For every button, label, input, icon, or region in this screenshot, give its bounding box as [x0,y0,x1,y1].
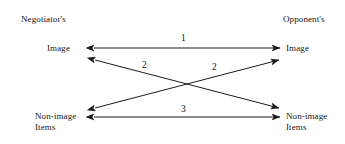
edge-label-2b: 2 [212,62,217,73]
node-opponent-nonimage-items: Non-image Items [286,111,327,133]
node-negotiator-nonimage-line1: Non-image [35,111,76,122]
node-opponent-nonimage-line2: Items [286,122,327,133]
edge-label-1: 1 [181,33,186,44]
node-negotiator-image: Image [47,43,70,54]
node-opponent-nonimage-line1: Non-image [286,111,327,122]
edge-label-2a: 2 [142,60,147,71]
column-header-opponent: Opponent's [283,14,325,25]
column-header-negotiator: Negotiator's [21,14,66,25]
diagram-canvas: Negotiator's Opponent's Image Image Non-… [0,0,345,144]
edge-label-3: 3 [181,104,186,115]
node-negotiator-nonimage-line2: Items [35,122,76,133]
node-opponent-image: Image [286,43,309,54]
node-negotiator-nonimage-items: Non-image Items [35,111,76,133]
